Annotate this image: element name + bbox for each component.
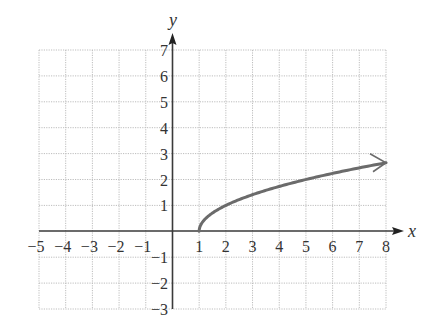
x-tick-label: 7 — [355, 238, 363, 255]
tick-labels: −5−4−3−2−1123456787654321−1−2−3 — [27, 42, 390, 318]
graph: x y −5−4−3−2−1123456787654321−1−2−3 — [0, 0, 434, 334]
x-tick-label: 3 — [249, 238, 257, 255]
x-tick-label: −3 — [81, 238, 98, 255]
x-tick-label: 2 — [222, 238, 230, 255]
y-tick-label: 5 — [160, 94, 168, 111]
x-tick-label: 6 — [329, 238, 337, 255]
y-tick-label: 3 — [160, 146, 168, 163]
x-tick-label: 8 — [382, 238, 390, 255]
curve — [199, 154, 386, 232]
y-tick-label: 1 — [160, 197, 168, 214]
x-tick-label: 4 — [275, 238, 283, 255]
y-tick-label: −2 — [151, 275, 168, 292]
x-tick-label: 1 — [195, 238, 203, 255]
y-tick-label: 6 — [160, 68, 168, 85]
x-tick-label: −4 — [54, 238, 71, 255]
y-axis-label: y — [167, 10, 177, 30]
y-tick-label: 7 — [160, 42, 168, 59]
x-tick-label: −2 — [108, 238, 125, 255]
grid — [39, 50, 386, 309]
x-tick-label: −5 — [27, 238, 44, 255]
x-tick-label: −1 — [134, 238, 151, 255]
x-axis-label: x — [407, 221, 416, 241]
x-tick-label: 5 — [302, 238, 310, 255]
sqrt-curve — [199, 163, 386, 232]
y-tick-label: −1 — [151, 249, 168, 266]
y-tick-label: 4 — [160, 120, 168, 137]
y-tick-label: −3 — [151, 301, 168, 318]
y-tick-label: 2 — [160, 172, 168, 189]
